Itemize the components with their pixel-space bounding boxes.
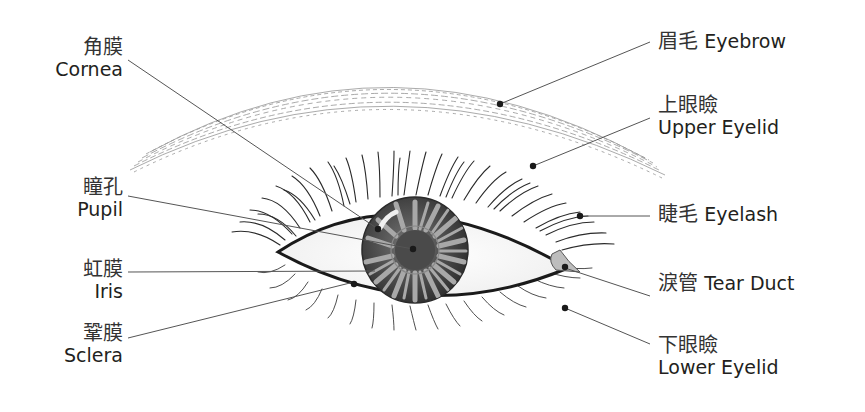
label-iris-en: Iris (83, 281, 123, 303)
label-eyelash-en: Eyelash (704, 203, 778, 225)
label-lower-eyelid-zh: 下眼瞼 (658, 334, 779, 357)
label-iris-zh: 虹膜 (83, 258, 123, 281)
label-cornea: 角膜 Cornea (55, 36, 123, 81)
label-sclera-en: Sclera (64, 345, 123, 367)
label-eyebrow-en: Eyebrow (704, 30, 786, 52)
label-eyebrow: 眉毛 Eyebrow (658, 30, 786, 53)
label-upper-eyelid-en: Upper Eyelid (658, 117, 779, 139)
label-sclera-zh: 鞏膜 (64, 322, 123, 345)
label-cornea-en: Cornea (55, 59, 123, 81)
label-tear-duct-zh: 淚管 (658, 271, 704, 295)
label-tear-duct: 淚管 Tear Duct (658, 272, 795, 295)
label-eyelash: 睫毛 Eyelash (658, 203, 778, 226)
label-pupil-zh: 瞳孔 (77, 176, 123, 199)
label-eyebrow-zh: 眉毛 (658, 29, 704, 53)
label-sclera: 鞏膜 Sclera (64, 322, 123, 367)
label-pupil: 瞳孔 Pupil (77, 176, 123, 221)
label-lower-eyelid-en: Lower Eyelid (658, 357, 779, 379)
eyebrow (130, 87, 665, 178)
label-tear-duct-en: Tear Duct (704, 272, 794, 294)
label-eyelash-zh: 睫毛 (658, 202, 704, 226)
label-iris: 虹膜 Iris (83, 258, 123, 303)
label-lower-eyelid: 下眼瞼 Lower Eyelid (658, 334, 779, 379)
label-upper-eyelid-zh: 上眼瞼 (658, 94, 779, 117)
label-cornea-zh: 角膜 (55, 36, 123, 59)
label-pupil-en: Pupil (77, 199, 123, 221)
label-upper-eyelid: 上眼瞼 Upper Eyelid (658, 94, 779, 139)
